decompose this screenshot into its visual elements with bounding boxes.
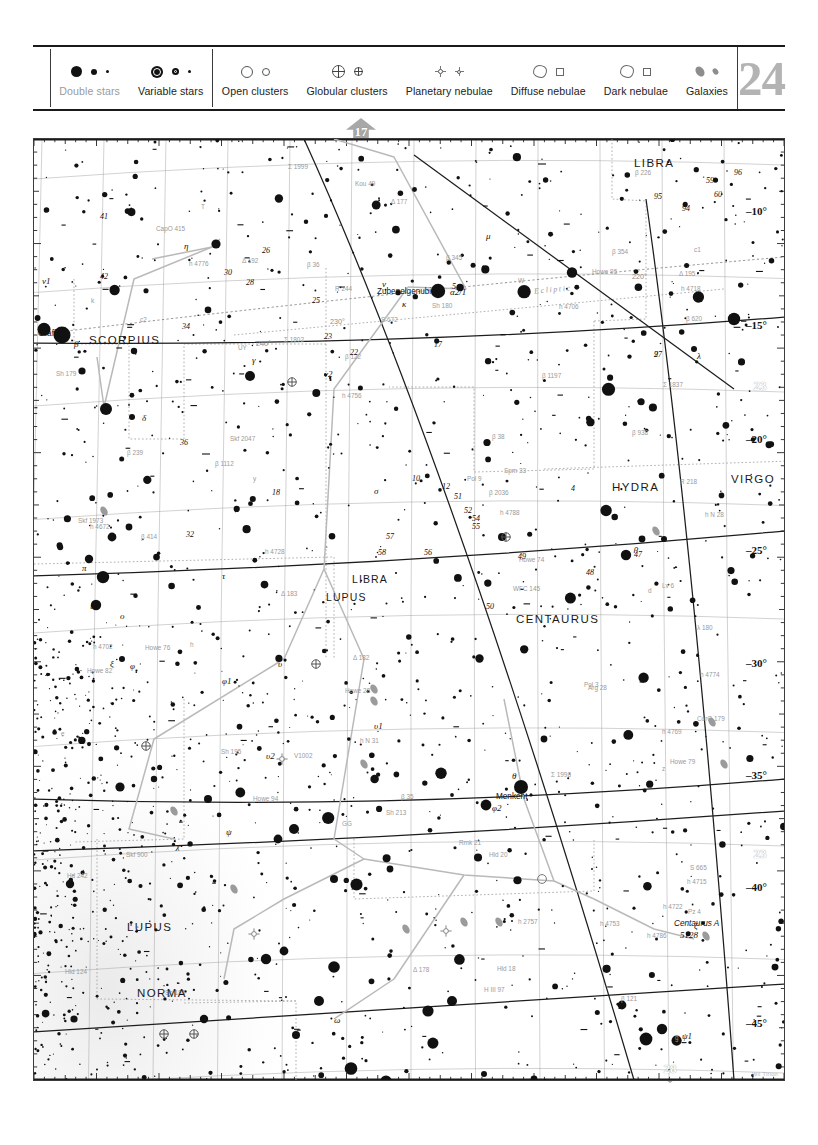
svg-text:ψ1: ψ1 (682, 1031, 692, 1041)
svg-text:φ1: φ1 (222, 676, 231, 686)
nav-arrow-up-label: 17 (355, 124, 368, 140)
svg-text:18: 18 (272, 488, 280, 497)
svg-text:β 938: β 938 (632, 429, 649, 437)
svg-text:h 4728: h 4728 (265, 548, 285, 555)
svg-text:h 4753: h 4753 (600, 920, 620, 927)
legend-bar: Double stars Variable stars Open cluster… (33, 45, 785, 111)
svg-text:17: 17 (434, 340, 443, 349)
starfield: Σ 1998Σ 1999Σ 1837Σ 1802Sh 213Sh 195Sh 1… (34, 139, 784, 1080)
svg-text:g: g (675, 1034, 679, 1042)
legend-label-globular-clusters: Globular clusters (307, 85, 388, 97)
svg-text:Δ 195: Δ 195 (679, 270, 696, 277)
star-map[interactable]: Σ 1998Σ 1999Σ 1837Σ 1802Sh 213Sh 195Sh 1… (33, 138, 785, 1081)
dec-label-7: –45° (746, 1017, 767, 1029)
svg-text:h 4715: h 4715 (687, 878, 707, 885)
svg-text:Howe 82: Howe 82 (87, 667, 113, 674)
svg-text:h 4774: h 4774 (700, 671, 720, 678)
svg-text:β 36: β 36 (307, 261, 320, 269)
galaxy-small-icon (711, 67, 719, 76)
legend-item-galaxies: Galaxies (677, 47, 737, 109)
legend-left-spacer (33, 47, 50, 109)
svg-text:CapO 415: CapO 415 (156, 225, 186, 233)
svg-text:c1: c1 (694, 246, 701, 253)
chart-credit: Wil Tirion (752, 1071, 778, 1077)
svg-text:V1002: V1002 (294, 752, 313, 759)
svg-text:30: 30 (223, 268, 232, 277)
double-star-small-icon (106, 70, 109, 73)
planetary-nebula-large-icon (435, 66, 446, 77)
svg-text:Δ 178: Δ 178 (413, 966, 430, 973)
legend-label-diffuse-nebulae: Diffuse nebulae (511, 85, 586, 97)
svg-text:y: y (253, 475, 257, 483)
constellation-libra-south: LIBRA (352, 573, 388, 585)
svg-text:H III 97: H III 97 (484, 986, 505, 993)
svg-text:Arg 28: Arg 28 (588, 684, 607, 692)
svg-text:Skf 1973: Skf 1973 (78, 517, 104, 524)
svg-text:UY: UY (238, 344, 248, 351)
svg-text:Howe 76: Howe 76 (145, 644, 171, 651)
svg-text:β 354: β 354 (612, 248, 629, 256)
legend-item-planetary-nebulae: Planetary nebulae (397, 47, 502, 109)
svg-text:β 35: β 35 (401, 793, 414, 801)
svg-text:T: T (201, 203, 205, 210)
dark-nebula-large-icon (620, 65, 634, 78)
legend-item-dark-nebulae: Dark nebulae (595, 47, 677, 109)
svg-text:22: 22 (350, 348, 358, 357)
svg-text:Skf 900: Skf 900 (126, 851, 148, 858)
svg-text:z: z (662, 765, 665, 772)
svg-text:h 4769: h 4769 (662, 728, 682, 735)
svg-text:h 4722: h 4722 (663, 903, 683, 910)
svg-text:W: W (518, 277, 525, 284)
svg-text:π: π (82, 563, 87, 573)
open-cluster-large-icon (241, 66, 253, 78)
svg-text:Howe 28: Howe 28 (345, 687, 371, 694)
legend-label-variable-stars: Variable stars (138, 85, 203, 97)
svg-text:Δ 192: Δ 192 (242, 257, 259, 264)
svg-text:β 239: β 239 (127, 449, 144, 457)
star-name-zubenelgenubi: Zubenelgenubi (377, 287, 431, 296)
svg-text:50: 50 (486, 602, 494, 611)
svg-text:ψ: ψ (226, 827, 232, 837)
svg-text:47: 47 (634, 550, 643, 559)
svg-text:Howe 79: Howe 79 (670, 758, 696, 765)
svg-text:h 4706: h 4706 (559, 303, 579, 310)
constellation-norma: NORMA (137, 987, 187, 999)
svg-text:CorO 179: CorO 179 (697, 715, 725, 722)
constellation-scorpius: SCORPIUS (89, 334, 160, 346)
svg-text:k: k (91, 297, 95, 304)
variable-star-small-icon (188, 70, 191, 73)
diffuse-nebula-large-icon (533, 65, 547, 78)
dark-nebula-small-icon (643, 68, 651, 76)
svg-text:ω: ω (334, 1015, 340, 1025)
svg-text:Σ 1837: Σ 1837 (663, 381, 683, 388)
globular-cluster-small-icon (354, 67, 363, 76)
svg-text:Rmk 21: Rmk 21 (459, 839, 481, 846)
svg-text:5: 5 (452, 282, 456, 291)
svg-text:Hld 124: Hld 124 (65, 968, 87, 975)
svg-text:β 226: β 226 (635, 169, 652, 177)
star-chart-page: Double stars Variable stars Open cluster… (0, 0, 818, 1145)
svg-text:12: 12 (442, 482, 450, 491)
svg-text:δ: δ (142, 413, 147, 423)
constellation-virgo: VIRGO (731, 473, 775, 485)
svg-text:θ: θ (512, 771, 517, 781)
variable-star-large-icon (151, 66, 163, 78)
svg-text:96: 96 (734, 168, 742, 177)
svg-text:β 2036: β 2036 (489, 489, 509, 497)
svg-text:Kou 49: Kou 49 (355, 180, 376, 187)
svg-text:e: e (61, 730, 65, 737)
ecliptic-longitude-230-label: 230° (330, 317, 345, 326)
svg-text:β 1197: β 1197 (542, 372, 562, 380)
nav-arrow-right-label-lower: 23 (754, 846, 767, 862)
svg-text:34: 34 (181, 322, 190, 331)
legend-label-open-clusters: Open clusters (222, 85, 289, 97)
chart-number-box: 24 (737, 47, 785, 109)
svg-text:h 4786: h 4786 (647, 932, 667, 939)
svg-text:59: 59 (706, 176, 714, 185)
svg-text:23: 23 (324, 332, 332, 341)
dark-nebula-symbols (620, 60, 651, 84)
globular-cluster-symbols (332, 60, 363, 84)
svg-text:β 121: β 121 (621, 995, 638, 1003)
constellation-libra-north: LIBRA (634, 157, 674, 169)
svg-text:β 620: β 620 (686, 315, 703, 323)
